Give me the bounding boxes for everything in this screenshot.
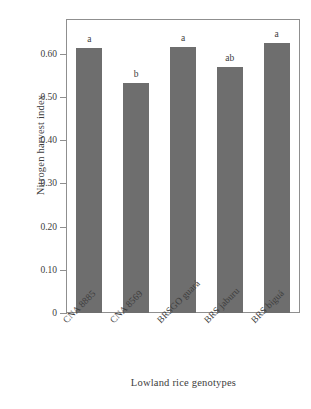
plot-area: abaaba <box>66 19 300 313</box>
bar[interactable] <box>217 67 243 313</box>
bar-slot: ab <box>206 19 253 313</box>
y-tick-label-wrap: 0.40 <box>0 135 57 145</box>
y-tick-label-wrap: 0.60 <box>0 49 57 59</box>
bar-significance-letter: ab <box>225 53 234 64</box>
y-tick-label: 0.10 <box>11 265 57 275</box>
y-tick-label-wrap: 0.30 <box>0 178 57 188</box>
bar-slot: b <box>113 19 160 313</box>
y-tick-label-wrap: 0.20 <box>0 222 57 232</box>
bar[interactable] <box>76 48 102 313</box>
y-tick-label: 0.40 <box>11 135 57 145</box>
y-tick-label: 0.30 <box>11 178 57 188</box>
bar-significance-letter: a <box>274 29 278 40</box>
y-tick-label: 0.50 <box>11 92 57 102</box>
y-tick-label-wrap: 0.10 <box>0 265 57 275</box>
bar-significance-letter: a <box>181 33 185 44</box>
bar-significance-letter: b <box>134 69 139 80</box>
bar[interactable] <box>264 43 290 313</box>
bar[interactable] <box>170 47 196 313</box>
y-tick-label-wrap: 0.50 <box>0 92 57 102</box>
x-axis-title: Lowland rice genotypes <box>66 377 301 388</box>
y-tick-label: 0.60 <box>11 49 57 59</box>
bar-significance-letter: a <box>87 34 91 45</box>
bar-slot: a <box>160 19 207 313</box>
bar-slot: a <box>253 19 300 313</box>
y-tick-label: 0 <box>11 308 57 318</box>
y-tick-label-wrap: 0 <box>0 308 57 318</box>
bar-slot: a <box>66 19 113 313</box>
bar[interactable] <box>123 83 149 313</box>
figure-container: Nitrogen harvest index 00.100.200.300.40… <box>0 0 311 409</box>
y-tick-label: 0.20 <box>11 222 57 232</box>
